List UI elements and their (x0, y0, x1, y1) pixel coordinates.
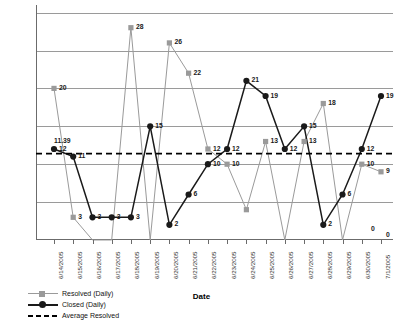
value-label-resolved: 9 (386, 167, 390, 174)
average-line-key-icon (28, 310, 58, 321)
data-point-marker[interactable] (263, 139, 268, 144)
value-label-resolved: 20 (59, 84, 67, 91)
data-point-marker[interactable] (205, 161, 211, 167)
legend-label-average: Average Resolved (62, 312, 119, 319)
chart-container: 6/14/20056/15/20056/16/20056/17/20056/18… (0, 0, 403, 326)
x-axis-tick-label: 6/29/2005 (345, 251, 352, 279)
x-axis-tick (208, 240, 209, 244)
data-point-marker[interactable] (359, 146, 365, 152)
data-point-marker[interactable] (302, 139, 307, 144)
value-label-closed: 2 (174, 220, 178, 227)
data-point-marker[interactable] (282, 146, 288, 152)
data-point-marker[interactable] (339, 191, 345, 197)
x-axis-tick-label: 6/21/2005 (191, 251, 198, 279)
x-axis-tick (285, 240, 286, 244)
data-point-marker[interactable] (51, 146, 57, 152)
value-label-resolved: 26 (174, 38, 182, 45)
x-axis-tick-label: 6/14/2005 (57, 251, 64, 279)
x-axis-tick-label: 6/27/2005 (307, 251, 314, 279)
legend-item-resolved[interactable]: Resolved (Daily) (28, 288, 119, 299)
x-axis-tick (169, 240, 170, 244)
x-axis-tick-label: 6/20/2005 (172, 251, 179, 279)
value-label-resolved: 12 (213, 145, 221, 152)
x-axis-tick-label: 6/30/2005 (364, 251, 371, 279)
x-axis-tick (323, 240, 324, 244)
data-point-marker[interactable] (89, 214, 95, 220)
data-point-marker[interactable] (128, 25, 133, 30)
value-label-closed: 10 (213, 160, 221, 167)
value-label-resolved: 3 (78, 213, 82, 220)
x-axis-tick (362, 240, 363, 244)
chart-legend: Resolved (Daily) Closed (Daily) Average … (28, 288, 119, 321)
value-label-closed: 12 (367, 145, 375, 152)
value-label-closed: 21 (251, 76, 259, 83)
value-label-closed: 11 (78, 152, 85, 159)
x-axis-tick-label: 7/1/2005 (384, 255, 391, 279)
legend-label-resolved: Resolved (Daily) (62, 290, 113, 297)
data-point-marker[interactable] (109, 214, 115, 220)
data-point-marker[interactable] (244, 207, 249, 212)
data-point-marker[interactable] (224, 146, 230, 152)
data-point-marker[interactable] (301, 123, 307, 129)
x-axis-tick-label: 6/22/2005 (210, 251, 217, 279)
x-axis-tick-label: 6/24/2005 (249, 251, 256, 279)
value-label-resolved: 18 (328, 99, 336, 106)
x-axis-tick (304, 240, 305, 244)
value-label-resolved: 10 (367, 160, 375, 167)
value-label-closed: 19 (386, 92, 394, 99)
x-axis-tick (131, 240, 132, 244)
data-point-marker[interactable] (167, 40, 172, 45)
value-label-resolved: 28 (136, 23, 144, 30)
x-axis-tick-label: 6/18/2005 (133, 251, 140, 279)
x-axis-tick (227, 240, 228, 244)
data-point-marker[interactable] (378, 93, 384, 99)
value-label-closed: 12 (290, 145, 298, 152)
x-axis-tick-label: 6/16/2005 (95, 251, 102, 279)
data-point-marker[interactable] (321, 101, 326, 106)
data-point-marker[interactable] (147, 123, 153, 129)
data-point-marker[interactable] (320, 222, 326, 228)
x-axis-tick-label: 6/25/2005 (268, 251, 275, 279)
closed-series-key-icon (28, 299, 58, 310)
data-point-marker[interactable] (186, 191, 192, 197)
value-label-closed: 15 (155, 122, 163, 129)
data-point-marker[interactable] (71, 215, 76, 220)
x-axis-tick (112, 240, 113, 244)
legend-label-closed: Closed (Daily) (62, 301, 106, 308)
data-point-marker[interactable] (263, 93, 269, 99)
data-point-marker[interactable] (166, 222, 172, 228)
data-point-marker[interactable] (225, 162, 230, 167)
data-point-marker[interactable] (128, 214, 134, 220)
data-point-marker[interactable] (243, 78, 249, 84)
value-label-closed: 12 (59, 145, 67, 152)
x-axis-tick (246, 240, 247, 244)
value-label-closed: 6 (348, 190, 352, 197)
value-label-closed: 15 (309, 122, 317, 129)
legend-item-average[interactable]: Average Resolved (28, 310, 119, 321)
x-axis-tick (189, 240, 190, 244)
value-label-closed: 19 (271, 92, 279, 99)
value-label-closed: 12 (232, 145, 240, 152)
x-axis-tick (381, 240, 382, 244)
x-axis-tick (150, 240, 151, 244)
data-point-marker[interactable] (205, 146, 210, 151)
value-label-resolved: 13 (271, 137, 279, 144)
x-axis-tick-label: 6/19/2005 (153, 251, 160, 279)
x-axis-tick-label: 6/15/2005 (76, 251, 83, 279)
data-point-marker[interactable] (186, 71, 191, 76)
x-axis-tick-label: 6/26/2005 (287, 251, 294, 279)
value-label-resolved: 22 (194, 69, 202, 76)
legend-item-closed[interactable]: Closed (Daily) (28, 299, 119, 310)
data-point-marker[interactable] (51, 86, 56, 91)
plot-area (36, 5, 393, 240)
x-axis-tick (54, 240, 55, 244)
x-axis-tick-label: 6/28/2005 (326, 251, 333, 279)
x-axis-tick (93, 240, 94, 244)
series-line-resolved (54, 28, 381, 240)
x-axis-tick (343, 240, 344, 244)
value-label-closed: 6 (194, 190, 198, 197)
data-point-marker[interactable] (359, 162, 364, 167)
value-label-closed: 2 (328, 220, 332, 227)
data-point-marker[interactable] (378, 169, 383, 174)
resolved-series-key-icon (28, 288, 58, 299)
